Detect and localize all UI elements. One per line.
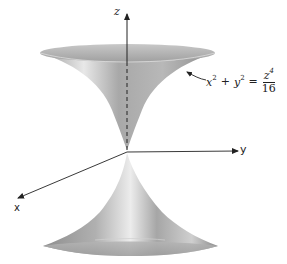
x-axis bbox=[18, 152, 127, 198]
x-axis-label: x bbox=[14, 203, 20, 213]
y-axis bbox=[127, 151, 238, 152]
lower-surface bbox=[43, 153, 218, 256]
equation-leader-arrow bbox=[187, 72, 206, 80]
equation-lhs: x2 bbox=[206, 74, 217, 89]
surface-equation: x2 + y2 = z4 16 bbox=[206, 68, 276, 94]
eq-plus: + bbox=[221, 75, 230, 88]
surface-diagram: z y x x2 + y2 = z4 16 bbox=[0, 0, 287, 264]
z-axis-label: z bbox=[114, 6, 120, 17]
eq-denominator: 16 bbox=[262, 83, 276, 95]
eq-fraction: z4 16 bbox=[262, 68, 276, 94]
eq-exp-x: 2 bbox=[212, 74, 216, 82]
eq-exp-y: 2 bbox=[240, 74, 244, 82]
diagram-canvas bbox=[0, 0, 287, 264]
y-axis-label: y bbox=[240, 144, 247, 155]
eq-numerator: z4 bbox=[263, 68, 275, 83]
eq-equals: = bbox=[249, 75, 258, 88]
eq-exp-z: 4 bbox=[269, 67, 273, 75]
